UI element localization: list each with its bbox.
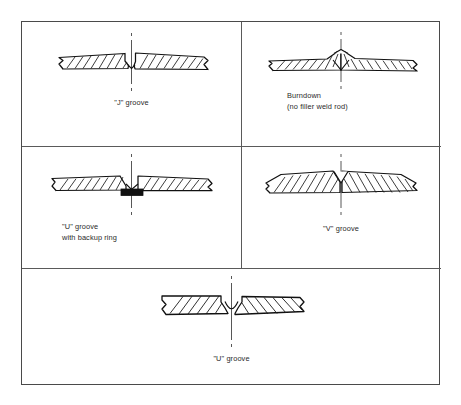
left-plate (269, 52, 341, 71)
j-groove-drawing (22, 22, 241, 146)
burndown-drawing (241, 22, 441, 146)
caption-j-groove: "J" groove (22, 98, 241, 109)
left-plate (59, 54, 129, 70)
right-plate (235, 297, 304, 315)
weld-crown (334, 50, 348, 54)
left-plate (266, 171, 340, 193)
cell-u-groove-backup-ring: "U" groove with backup ring (22, 146, 241, 268)
backup-ring (121, 189, 143, 196)
caption-v-groove: "V" groove (241, 224, 441, 235)
caption-u-groove-backup-ring: "U" groove with backup ring (22, 222, 241, 243)
cell-burndown: Burndown (no filler weld rod) (241, 22, 441, 146)
cell-j-groove: "J" groove (22, 22, 241, 146)
cell-u-groove: "U" groove (22, 268, 441, 386)
u-groove-backup-ring-drawing (22, 146, 241, 268)
welding-groove-figure: "J" groove (0, 0, 461, 405)
u-groove-drawing (22, 268, 441, 386)
caption-u-groove: "U" groove (22, 354, 441, 365)
cell-v-groove: "V" groove (241, 146, 441, 268)
caption-burndown: Burndown (no filler weld rod) (241, 91, 441, 112)
v-groove-drawing (241, 146, 441, 268)
figure-frame: "J" groove (21, 21, 440, 385)
